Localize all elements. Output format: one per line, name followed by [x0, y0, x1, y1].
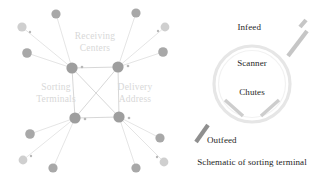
label-delivery-address-line2: Address	[119, 94, 152, 104]
leaf-node	[131, 163, 140, 172]
micro-node	[81, 66, 84, 69]
edge-hub-bl-l7	[30, 118, 75, 134]
edge-core-left	[72, 68, 75, 118]
leaf-node	[25, 129, 35, 139]
terminal-schematic-svg: Infeed Scanner Chutes Outfeed Schematic …	[180, 0, 326, 185]
terminal-caption: Schematic of sorting terminal	[197, 157, 307, 167]
micro-node	[84, 118, 87, 121]
leaf-node	[51, 9, 60, 18]
edge-core-bottom	[75, 117, 119, 118]
leaf-node	[19, 156, 28, 165]
label-chutes: Chutes	[239, 87, 265, 97]
label-receiving-centers-line2: Centers	[80, 43, 111, 53]
micro-node	[29, 31, 31, 33]
label-delivery-address-line1: Delivery	[118, 82, 153, 92]
edge-hub-tr-l6	[118, 52, 163, 67]
network-core-edges	[72, 67, 119, 118]
edge-core-diag-1	[72, 68, 119, 117]
edge-core-diag-2	[75, 67, 118, 118]
leaf-node	[22, 48, 32, 58]
infeed-bar	[288, 31, 307, 56]
leaf-node	[160, 158, 169, 167]
leaf-node	[17, 22, 26, 31]
edge-core-right	[118, 67, 119, 117]
hub-node-top-left	[66, 62, 77, 73]
edge-hub-bl-l9	[53, 118, 75, 168]
edge-hub-tl-l1	[56, 14, 72, 68]
micro-node	[30, 155, 32, 157]
hub-node-bottom-left	[69, 112, 80, 123]
leaf-node	[155, 133, 164, 142]
edge-hub-tl-l2	[22, 27, 72, 68]
micro-node	[127, 65, 130, 68]
network-diagram-svg: Receiving Centers Sorting Terminals Deli…	[0, 0, 180, 185]
hub-node-bottom-right	[113, 111, 124, 122]
infeed-bar-tip	[300, 20, 306, 27]
label-receiving-centers-line1: Receiving	[75, 31, 115, 41]
hub-node-top-right	[112, 61, 123, 72]
figure-root: Receiving Centers Sorting Terminals Deli…	[0, 0, 326, 185]
leaf-node	[48, 163, 57, 172]
edge-hub-tl-l3	[27, 53, 72, 68]
label-sorting-terminals-line1: Sorting	[41, 82, 70, 92]
label-infeed: Infeed	[237, 22, 261, 32]
label-scanner: Scanner	[237, 58, 267, 68]
edge-core-top	[72, 67, 118, 68]
leaf-node	[161, 23, 170, 32]
leaf-node	[158, 47, 168, 57]
micro-node	[128, 117, 131, 120]
terminal-schematic-panel: Infeed Scanner Chutes Outfeed Schematic …	[180, 0, 326, 185]
leaf-node	[131, 8, 140, 17]
edge-hub-bl-l8	[23, 118, 75, 160]
label-outfeed: Outfeed	[207, 135, 237, 145]
micro-node	[157, 30, 159, 32]
micro-node	[156, 156, 158, 158]
label-sorting-terminals-line2: Terminals	[36, 94, 76, 104]
network-diagram-panel: Receiving Centers Sorting Terminals Deli…	[0, 0, 180, 185]
